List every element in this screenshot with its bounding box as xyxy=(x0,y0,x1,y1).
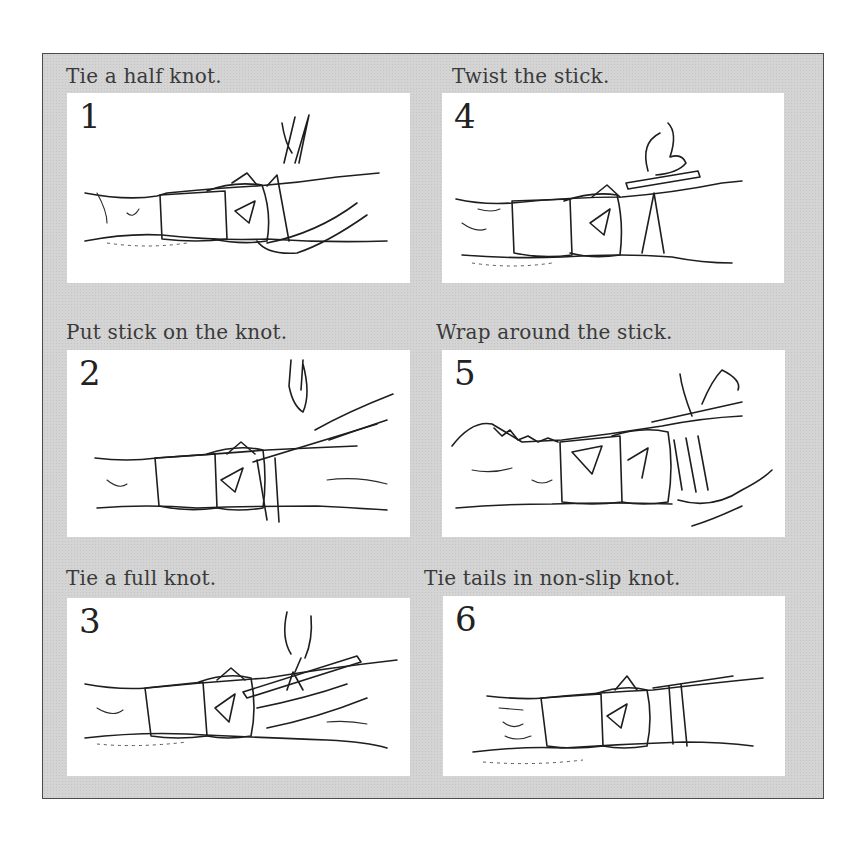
step-5-illustration-icon xyxy=(442,350,785,537)
step-6-illustration-icon xyxy=(443,596,785,776)
step-2-caption: Put stick on the knot. xyxy=(66,320,287,344)
step-5-panel: 5 xyxy=(442,350,785,537)
step-4-panel: 4 xyxy=(442,93,784,283)
step-6-panel: 6 xyxy=(443,596,785,776)
step-4-caption: Twist the stick. xyxy=(452,64,610,88)
step-1-caption: Tie a half knot. xyxy=(66,64,222,88)
step-3-caption: Tie a full knot. xyxy=(66,566,216,590)
step-4-illustration-icon xyxy=(442,93,784,283)
step-1-panel: 1 xyxy=(67,93,410,283)
step-3-illustration-icon xyxy=(67,598,410,776)
step-2-panel: 2 xyxy=(67,350,410,537)
step-6-caption: Tie tails in non-slip knot. xyxy=(424,566,681,590)
step-1-illustration-icon xyxy=(67,93,410,283)
step-5-caption: Wrap around the stick. xyxy=(436,320,673,344)
step-2-illustration-icon xyxy=(67,350,410,537)
step-3-panel: 3 xyxy=(67,598,410,776)
